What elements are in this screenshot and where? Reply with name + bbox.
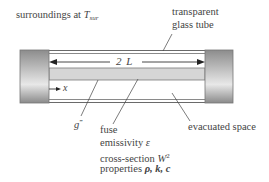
- fuse-cross-section: cross-section W2: [100, 150, 170, 163]
- generation-label: g‴: [74, 116, 82, 131]
- fuse-properties-label: fuse emissivity ε cross-section W2 prope…: [100, 124, 170, 176]
- cross-section-superscript: 2: [166, 152, 170, 160]
- emissivity-text: emissivity: [100, 137, 146, 148]
- generation-superscript: ‴: [79, 118, 82, 126]
- right-end-cap: [205, 50, 233, 103]
- surroundings-text: surroundings at: [16, 9, 84, 20]
- properties-symbols: ρ, k, c: [145, 163, 171, 174]
- left-end-cap: [20, 50, 49, 103]
- fuse-title: fuse: [100, 124, 170, 137]
- properties-text: properties: [100, 163, 145, 174]
- length-label: 2 L: [116, 55, 133, 67]
- evacuated-leader: [172, 93, 190, 121]
- x-axis-arrow: [49, 87, 61, 91]
- fuse-element: [49, 68, 205, 80]
- emissivity-symbol: ε: [146, 137, 150, 148]
- glass-tube-line2: glass tube: [172, 19, 219, 31]
- x-axis-label: x: [63, 82, 67, 94]
- generation-leader: [81, 80, 98, 116]
- surroundings-label: surroundings at Tsur: [16, 9, 98, 24]
- glass-tube-line1: transparent: [172, 6, 219, 19]
- evacuated-space-label: evacuated space: [188, 121, 256, 133]
- fuse-emissivity: emissivity ε: [100, 137, 170, 150]
- glass-tube-leader: [163, 34, 172, 51]
- fuse-leader: [113, 79, 138, 124]
- surroundings-subscript: sur: [90, 14, 99, 22]
- glass-tube-label: transparent glass tube: [172, 6, 219, 31]
- fuse-properties: properties ρ, k, c: [100, 163, 170, 176]
